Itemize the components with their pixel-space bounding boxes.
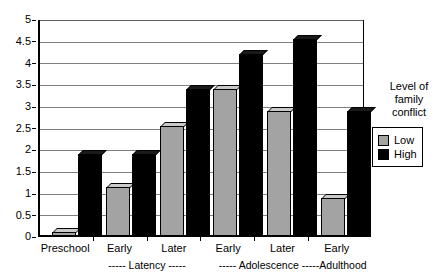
y-tick-mark [32,150,36,151]
y-tick-mark [32,63,36,64]
y-tick-label: 4.5 [16,36,31,47]
legend-title-line-3: conflict [372,106,446,119]
bar-group-adulthood-early [309,20,363,237]
legend-title-line-1: Level of [372,80,446,93]
legend-swatch-high-icon [378,149,389,160]
y-tick-mark [32,237,36,238]
legend-item-high: High [378,148,417,160]
x-label-adolescence-early: Early [201,241,255,257]
y-tick-mark [32,172,36,173]
legend-box: Low High [372,127,423,167]
bar-groups [40,20,363,237]
x-axis-span-labels: ----- Latency ----- ----- Adolescence --… [38,258,364,274]
bar-group-preschool [40,20,94,237]
y-tick-mark [32,41,36,42]
x-label-latency-later: Later [147,241,201,257]
x-label-preschool: Preschool [38,241,92,257]
x-label-adulthood-early: Early [310,241,364,257]
bar-group-adolescence-early [201,20,255,237]
legend-label-high: High [394,148,417,160]
y-tick-mark [32,128,36,129]
y-tick-mark [32,85,36,86]
y-tick-label: 1.5 [16,166,31,177]
y-tick-mark [32,215,36,216]
y-tick-mark [32,107,36,108]
y-tick-label: 4 [25,58,31,69]
y-tick-label: 3.5 [16,79,31,90]
bar-low-latency-early [106,183,130,237]
plot-area [38,20,364,237]
y-tick-mark [32,20,36,21]
x-axis-line [38,235,363,237]
x-span-adulthood: Adulthood [310,258,376,272]
bar-chart: 5 4.5 4 3.5 3 2.5 2 1.5 1 0.5 0 [0,0,448,280]
bar-high-adulthood-early [347,107,371,237]
legend-label-low: Low [394,134,414,146]
x-label-latency-early: Early [92,241,146,257]
y-tick-label: 2.5 [16,123,31,134]
y-tick-label: 1 [25,188,31,199]
bar-low-latency-later [160,122,184,237]
legend-title-line-2: family [372,93,446,106]
y-tick-label: 5 [25,14,31,25]
legend-item-low: Low [378,134,417,146]
y-tick-label: 3 [25,101,31,112]
bar-low-adolescence-early [213,85,237,237]
x-span-latency: ----- Latency ----- [92,258,202,272]
legend-swatch-low-icon [378,135,389,146]
y-tick-label: 2 [25,144,31,155]
legend: Level of family conflict Low High [372,80,446,167]
bar-group-latency-later [148,20,202,237]
y-axis: 5 4.5 4 3.5 3 2.5 2 1.5 1 0.5 0 [0,0,36,280]
bar-low-adulthood-early [321,194,345,237]
bar-low-adolescence-later [267,107,291,237]
bar-group-adolescence-later [255,20,309,237]
bar-group-latency-early [94,20,148,237]
y-tick-label: 0 [25,231,31,242]
x-label-adolescence-later: Later [255,241,309,257]
x-axis-labels: Preschool Early Later Early Later Early [38,241,364,257]
y-tick-label: 0.5 [16,210,31,221]
y-tick-mark [32,194,36,195]
